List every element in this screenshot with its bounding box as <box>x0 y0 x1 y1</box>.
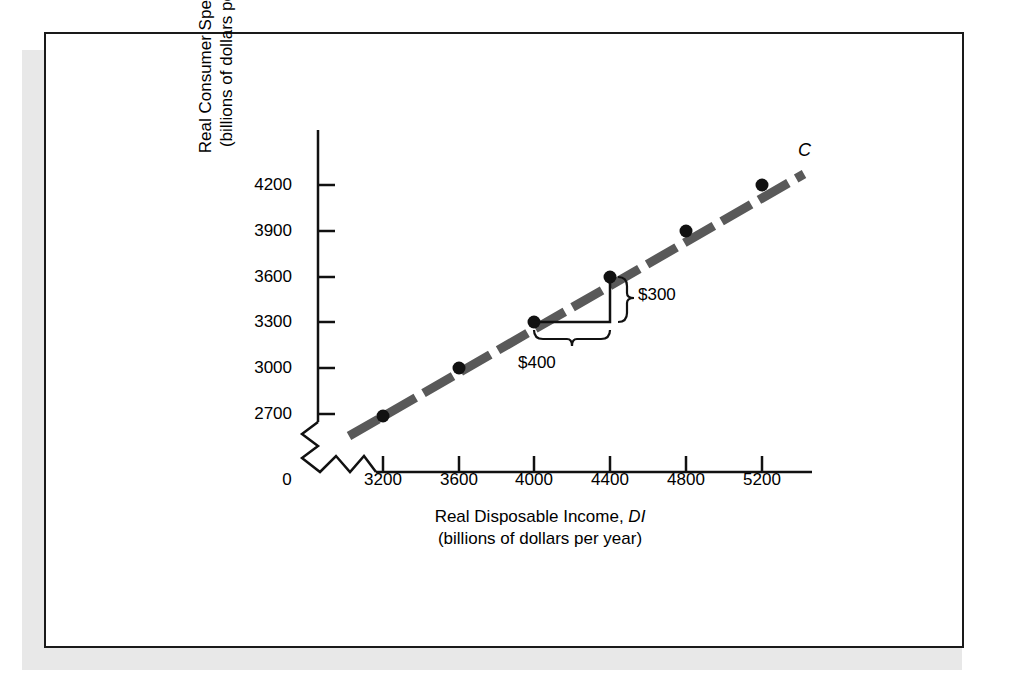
y-tick-label-3900: 3900 <box>232 221 292 241</box>
x-tick-label-4400: 4400 <box>580 470 640 490</box>
x-tick-label-3600: 3600 <box>429 470 489 490</box>
data-point-4800 <box>680 225 693 238</box>
x-axis-variable: DI <box>628 507 645 526</box>
rise-annotation-label: $300 <box>638 285 676 305</box>
x-tick-label-3200: 3200 <box>353 470 413 490</box>
x-axis-title: Real Disposable Income, DI (billions of … <box>330 506 750 550</box>
y-tick-label-3000: 3000 <box>232 358 292 378</box>
slope-triangle-legs <box>534 277 610 322</box>
x-axis-title-line1: Real Disposable Income, DI <box>330 506 750 528</box>
y-tick-label-2700: 2700 <box>232 404 292 424</box>
x-tick-label-4800: 4800 <box>656 470 716 490</box>
y-axis-ticks <box>318 185 335 414</box>
y-tick-label-3300: 3300 <box>232 312 292 332</box>
x-axis-title-line2: (billions of dollars per year) <box>330 528 750 550</box>
plot-canvas <box>44 32 964 648</box>
data-point-5200 <box>756 179 769 192</box>
y-tick-label-4200: 4200 <box>232 175 292 195</box>
figure-root: Real Consumer Spending, C (billions of d… <box>0 0 1009 678</box>
y-axis-title: Real Consumer Spending, C (billions of d… <box>196 0 236 170</box>
y-axis-title-line2: (billions of dollars per year) <box>216 0 237 147</box>
x-tick-label-0: 0 <box>272 470 302 490</box>
figure-shadow-bottom <box>22 648 962 670</box>
consumption-function-line <box>349 174 804 436</box>
data-point-3200 <box>377 410 390 423</box>
consumption-curve-label: C <box>798 140 811 161</box>
data-point-3600 <box>453 362 466 375</box>
y-axis-title-line1: Real Consumer Spending, C <box>195 0 216 153</box>
figure-shadow-left <box>22 50 44 670</box>
x-tick-label-4000: 4000 <box>504 470 564 490</box>
y-tick-label-3600: 3600 <box>232 267 292 287</box>
run-brace <box>534 330 610 346</box>
x-tick-label-5200: 5200 <box>732 470 792 490</box>
run-annotation-label: $400 <box>518 353 556 373</box>
